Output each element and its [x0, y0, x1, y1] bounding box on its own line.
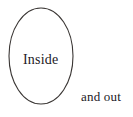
- inside-and-out-diagram: Inside and out: [0, 0, 133, 117]
- outside-region-label: and out: [81, 90, 121, 103]
- inside-region-label: Inside: [23, 53, 58, 67]
